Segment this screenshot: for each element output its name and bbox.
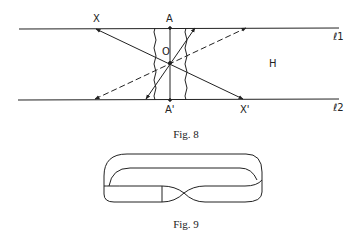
label-x-prime: X' <box>240 104 250 115</box>
label-l1: ℓ1 <box>333 31 344 42</box>
label-h: H <box>269 58 277 69</box>
point-a-prime <box>169 99 172 102</box>
fig9-mobius-strip <box>104 154 262 202</box>
label-x: X <box>93 13 100 24</box>
wavy-line-right <box>185 28 187 100</box>
line-l2 <box>18 99 339 100</box>
label-a: A <box>166 13 173 24</box>
line-l1 <box>19 28 339 29</box>
wavy-line-left <box>154 28 156 100</box>
fig8-diagram <box>18 27 339 102</box>
fig8-caption: Fig. 8 <box>173 128 199 140</box>
label-o: O <box>162 46 170 57</box>
point-a <box>169 27 172 30</box>
label-a-prime: A' <box>165 104 175 115</box>
figures-canvas: X A O H A' X' ℓ1 ℓ2 Fig. 8 Fig. 9 <box>0 0 363 238</box>
label-l2: ℓ2 <box>333 102 344 113</box>
fig9-caption: Fig. 9 <box>173 218 199 230</box>
